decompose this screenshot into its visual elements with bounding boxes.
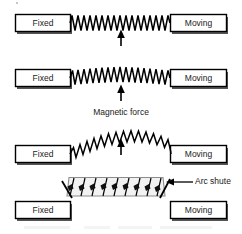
- smudge: [118, 226, 152, 229]
- arc-shute-label: Arc shute: [195, 176, 231, 186]
- smudge: [84, 226, 110, 229]
- magnetic-arc-blowout-diagram: Fixed Moving Fixed Moving: [0, 0, 242, 234]
- fixed-box-label: Fixed: [33, 205, 54, 215]
- stage-3-moving-box: Moving: [171, 146, 229, 166]
- stage-1-fixed-box: Fixed: [16, 15, 73, 35]
- diagram-canvas: Fixed Moving Fixed Moving: [0, 0, 242, 234]
- smudge: [160, 226, 212, 229]
- fixed-box-label: Fixed: [33, 18, 54, 28]
- stage-2-moving-box: Moving: [171, 70, 229, 90]
- moving-box-label: Moving: [185, 205, 213, 215]
- stage-1-moving-box: Moving: [171, 15, 229, 35]
- stage-3-fixed-box: Fixed: [16, 146, 73, 166]
- fixed-box-label: Fixed: [33, 73, 54, 83]
- stage-4-fixed-box: Fixed: [16, 202, 73, 222]
- scan-smudge-band: [24, 226, 212, 229]
- magnetic-force-label: Magnetic force: [93, 107, 149, 117]
- moving-box-label: Moving: [185, 18, 213, 28]
- stage-2-fixed-box: Fixed: [16, 70, 73, 90]
- moving-box-label: Moving: [185, 149, 213, 159]
- fixed-box-label: Fixed: [33, 149, 54, 159]
- scan-speck: [16, 2, 18, 4]
- stage-4-moving-box: Moving: [171, 202, 229, 222]
- smudge: [24, 226, 70, 229]
- moving-box-label: Moving: [185, 73, 213, 83]
